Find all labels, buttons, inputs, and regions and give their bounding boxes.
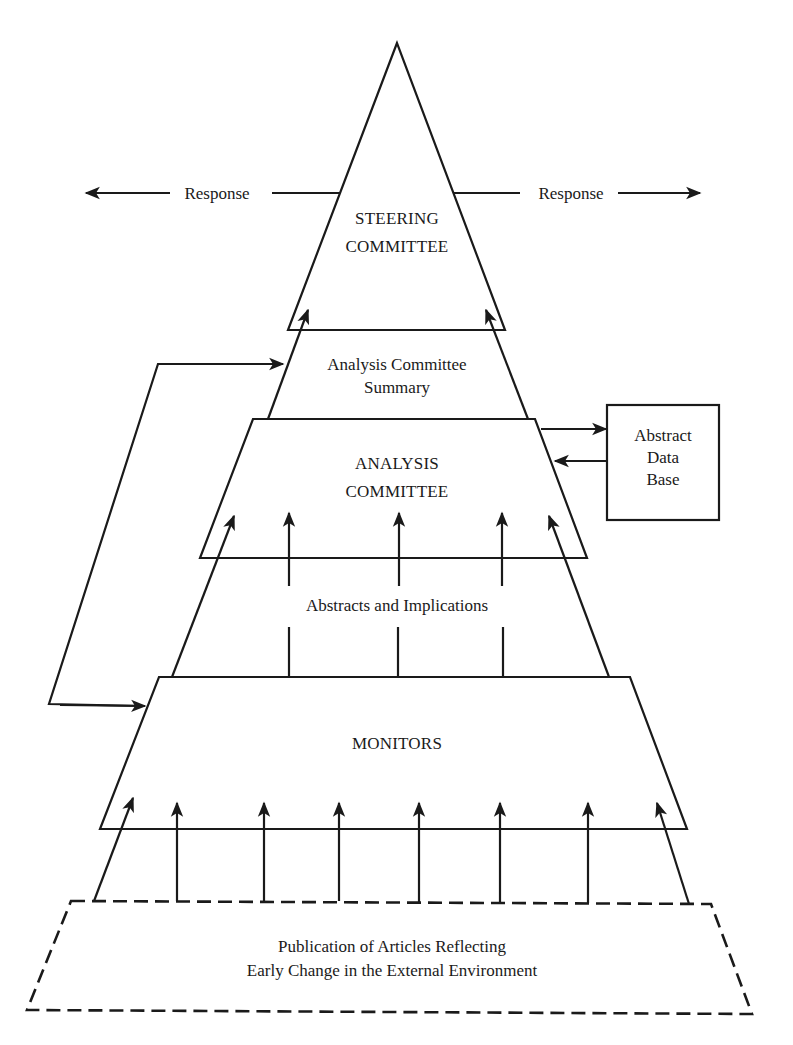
analysis-committee-node: ANALYSIS COMMITTEE [200,419,587,558]
analysis-summary-node: Analysis Committee Summary [268,310,528,419]
abstract-data-base-node: Abstract Data Base [541,405,719,520]
feedback-loop [49,364,283,706]
response-left-label: Response [184,184,249,203]
publication-node: Publication of Articles Reflecting Early… [27,901,752,1014]
abstracts-implications-node: Abstracts and Implications [172,513,609,677]
summary-label-line1: Analysis Committee [327,355,466,374]
analysis-label-line2: COMMITTEE [346,482,449,501]
arrow-up-icon [486,310,528,419]
steering-triangle-shape [288,43,505,330]
arrow-up-icon [549,516,609,677]
pyramid-diagram: STEERING COMMITTEE Response Response Ana… [0,0,793,1045]
publication-to-monitors-arrows [94,798,689,904]
response-right-arrow: Response [453,184,700,203]
arrow-right-icon [60,705,145,706]
arrow-up-icon [172,516,234,677]
steering-committee-node: STEERING COMMITTEE [288,43,505,330]
adb-label-line3: Base [646,470,679,489]
monitors-node: MONITORS [100,677,687,829]
response-right-label: Response [538,184,603,203]
publication-label-line2: Early Change in the External Environment [247,961,538,980]
steering-label-line1: STEERING [355,209,439,228]
abstracts-implications-label: Abstracts and Implications [306,596,488,615]
monitors-label: MONITORS [352,734,442,753]
publication-dashed-shape [27,901,752,1014]
steering-label-line2: COMMITTEE [346,237,449,256]
publication-label-line1: Publication of Articles Reflecting [278,937,507,956]
analysis-label-line1: ANALYSIS [355,454,439,473]
monitors-shape [100,677,687,829]
adb-label-line1: Abstract [634,426,692,445]
arrow-up-icon [94,798,133,901]
response-left-arrow: Response [86,184,340,203]
arrow-up-icon [657,803,689,904]
feedback-arrow-top [49,364,283,706]
adb-label-line2: Data [647,448,680,467]
summary-label-line2: Summary [364,378,431,397]
